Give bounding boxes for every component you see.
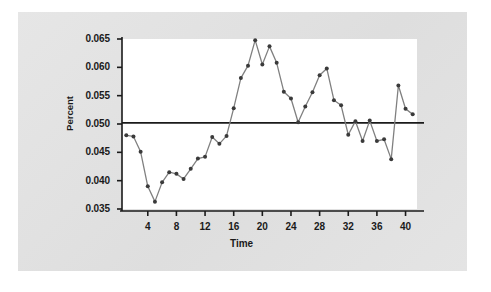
data-point-marker bbox=[318, 73, 322, 77]
data-point-marker bbox=[174, 172, 178, 176]
data-point-marker bbox=[210, 135, 214, 139]
data-point-marker bbox=[260, 63, 264, 67]
data-point-marker bbox=[239, 76, 243, 80]
data-point-marker bbox=[339, 103, 343, 107]
data-point-marker bbox=[375, 139, 379, 143]
data-point-marker bbox=[332, 98, 336, 102]
data-point-marker bbox=[382, 137, 386, 141]
data-point-marker bbox=[203, 155, 207, 159]
x-tick-label: 24 bbox=[279, 221, 303, 232]
data-point-marker bbox=[124, 133, 128, 137]
data-point-marker bbox=[131, 134, 135, 138]
data-point-marker bbox=[389, 157, 393, 161]
x-tick-label: 36 bbox=[365, 221, 389, 232]
data-point-marker bbox=[232, 106, 236, 110]
data-point-marker bbox=[167, 170, 171, 174]
x-tick-label: 32 bbox=[336, 221, 360, 232]
data-point-marker bbox=[303, 104, 307, 108]
y-tick-label: 0.060 bbox=[64, 61, 110, 72]
data-point-marker bbox=[182, 177, 186, 181]
data-point-marker bbox=[275, 61, 279, 65]
data-point-marker bbox=[361, 139, 365, 143]
data-point-marker bbox=[282, 90, 286, 94]
y-tick-label: 0.040 bbox=[64, 175, 110, 186]
series-markers bbox=[124, 38, 414, 204]
data-point-marker bbox=[139, 150, 143, 154]
data-point-marker bbox=[296, 120, 300, 124]
data-point-marker bbox=[310, 90, 314, 94]
plot-wrapper: 0.0650.0600.0550.0500.0450.0400.035 4812… bbox=[0, 0, 491, 292]
data-point-marker bbox=[396, 83, 400, 87]
data-point-marker bbox=[160, 180, 164, 184]
data-point-marker bbox=[346, 133, 350, 137]
y-axis-title: Percent bbox=[64, 96, 75, 131]
x-tick-label: 4 bbox=[136, 221, 160, 232]
x-tick-label: 16 bbox=[222, 221, 246, 232]
x-tick-label: 12 bbox=[193, 221, 217, 232]
data-point-marker bbox=[225, 134, 229, 138]
data-point-marker bbox=[146, 184, 150, 188]
data-point-marker bbox=[325, 66, 329, 70]
data-point-marker bbox=[411, 112, 415, 116]
data-point-marker bbox=[246, 64, 250, 68]
x-tick-label: 20 bbox=[250, 221, 274, 232]
data-point-marker bbox=[268, 44, 272, 48]
x-axis-title: Time bbox=[230, 238, 253, 249]
data-point-marker bbox=[217, 142, 221, 146]
x-tick-label: 28 bbox=[308, 221, 332, 232]
data-point-marker bbox=[404, 107, 408, 111]
y-tick-label: 0.045 bbox=[64, 146, 110, 157]
data-point-marker bbox=[189, 167, 193, 171]
data-point-marker bbox=[289, 97, 293, 101]
x-tick-label: 8 bbox=[164, 221, 188, 232]
data-point-marker bbox=[153, 200, 157, 204]
y-tick-label: 0.065 bbox=[64, 33, 110, 44]
axes-group bbox=[117, 37, 424, 216]
y-tick-label: 0.035 bbox=[64, 203, 110, 214]
data-point-marker bbox=[368, 119, 372, 123]
figure-canvas: 0.0650.0600.0550.0500.0450.0400.035 4812… bbox=[0, 0, 491, 292]
x-tick-label: 40 bbox=[394, 221, 418, 232]
data-point-marker bbox=[253, 38, 257, 42]
data-point-marker bbox=[196, 157, 200, 161]
data-point-marker bbox=[353, 119, 357, 123]
